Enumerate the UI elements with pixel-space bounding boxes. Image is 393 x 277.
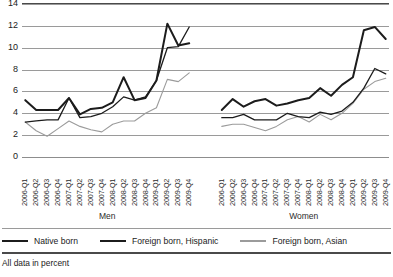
x-tick-label: 2006-Q4 <box>250 179 258 206</box>
x-axis-line <box>22 157 389 158</box>
legend-label: Foreign born, Asian <box>272 236 347 246</box>
x-tick-2009-Q1: 2009-Q1 <box>348 160 358 208</box>
x-tick-2006-Q4: 2006-Q4 <box>250 160 260 208</box>
x-tick-label: 2006-Q2 <box>228 179 236 206</box>
y-tick-label-10: 10 <box>2 43 18 52</box>
x-tick-2007-Q4: 2007-Q4 <box>293 160 303 208</box>
x-tick-2006-Q2: 2006-Q2 <box>31 160 41 208</box>
group-label-women: Women <box>219 211 390 221</box>
legend-item-native-born[interactable]: Native born <box>2 236 78 246</box>
legend-rule-top <box>2 228 391 229</box>
x-tick-2008-Q4: 2008-Q4 <box>141 160 151 208</box>
x-tick-label: 2006-Q1 <box>21 179 29 206</box>
x-tick-2008-Q2: 2008-Q2 <box>119 160 129 208</box>
y-tick-label-12: 12 <box>2 21 18 30</box>
x-tick-label: 2006-Q4 <box>54 179 62 206</box>
legend-swatch-icon <box>100 240 126 242</box>
x-tick-2007-Q2: 2007-Q2 <box>271 160 281 208</box>
x-tick-label: 2009-Q3 <box>370 179 378 206</box>
chart-figure: 02468101214 2006-Q12006-Q22006-Q32006-Q4… <box>0 0 393 277</box>
x-tick-2006-Q1: 2006-Q1 <box>217 160 227 208</box>
x-tick-2008-Q1: 2008-Q1 <box>108 160 118 208</box>
x-tick-2008-Q4: 2008-Q4 <box>337 160 347 208</box>
x-tick-label: 2006-Q1 <box>217 179 225 206</box>
x-tick-label: 2008-Q1 <box>108 179 116 206</box>
x-tick-label: 2009-Q3 <box>174 179 182 206</box>
x-tick-2007-Q4: 2007-Q4 <box>97 160 107 208</box>
x-tick-label: 2007-Q1 <box>261 179 269 206</box>
x-tick-2007-Q2: 2007-Q2 <box>75 160 85 208</box>
x-tick-label: 2006-Q3 <box>239 179 247 206</box>
x-tick-label: 2007-Q3 <box>283 179 291 206</box>
x-tick-label: 2007-Q4 <box>97 179 105 206</box>
x-tick-2009-Q4: 2009-Q4 <box>184 160 194 208</box>
x-tick-label: 2009-Q1 <box>348 179 356 206</box>
x-tick-2009-Q2: 2009-Q2 <box>162 160 172 208</box>
y-tick-label-14: 14 <box>2 0 18 8</box>
x-tick-label: 2006-Q3 <box>43 179 51 206</box>
legend-swatch-icon <box>240 240 266 241</box>
y-tick-label-0: 0 <box>2 152 18 161</box>
x-tick-label: 2008-Q1 <box>305 179 313 206</box>
x-tick-label: 2008-Q3 <box>327 179 335 206</box>
x-tick-2009-Q4: 2009-Q4 <box>381 160 391 208</box>
x-tick-label: 2007-Q1 <box>64 179 72 206</box>
x-tick-2007-Q3: 2007-Q3 <box>282 160 292 208</box>
x-tick-2006-Q4: 2006-Q4 <box>53 160 63 208</box>
x-tick-2009-Q3: 2009-Q3 <box>370 160 380 208</box>
x-tick-2008-Q3: 2008-Q3 <box>130 160 140 208</box>
x-tick-label: 2009-Q2 <box>163 179 171 206</box>
x-tick-label: 2009-Q4 <box>185 179 193 206</box>
x-tick-label: 2007-Q2 <box>75 179 83 206</box>
x-tick-2007-Q3: 2007-Q3 <box>86 160 96 208</box>
legend-item-foreign-born-hispanic[interactable]: Foreign born, Hispanic <box>100 236 218 246</box>
x-tick-label: 2008-Q3 <box>130 179 138 206</box>
x-tick-2006-Q2: 2006-Q2 <box>228 160 238 208</box>
x-tick-2009-Q3: 2009-Q3 <box>173 160 183 208</box>
x-tick-2008-Q3: 2008-Q3 <box>326 160 336 208</box>
x-tick-label: 2008-Q4 <box>141 179 149 206</box>
x-tick-2009-Q1: 2009-Q1 <box>151 160 161 208</box>
legend-item-foreign-born-asian[interactable]: Foreign born, Asian <box>240 236 347 246</box>
y-tick-label-2: 2 <box>2 130 18 139</box>
x-tick-2006-Q3: 2006-Q3 <box>239 160 249 208</box>
y-tick-label-4: 4 <box>2 108 18 117</box>
x-tick-2007-Q1: 2007-Q1 <box>260 160 270 208</box>
legend-label: Foreign born, Hispanic <box>132 236 218 246</box>
x-tick-label: 2007-Q4 <box>294 179 302 206</box>
x-tick-2006-Q3: 2006-Q3 <box>42 160 52 208</box>
x-tick-label: 2008-Q2 <box>119 179 127 206</box>
x-tick-label: 2009-Q1 <box>152 179 160 206</box>
x-tick-label: 2008-Q4 <box>338 179 346 206</box>
x-tick-label: 2006-Q2 <box>32 179 40 206</box>
y-tick-label-8: 8 <box>2 65 18 74</box>
legend-rule-bottom <box>2 252 391 254</box>
x-tick-label: 2009-Q4 <box>381 179 389 206</box>
x-tick-label: 2007-Q3 <box>86 179 94 206</box>
x-tick-group-men: 2006-Q12006-Q22006-Q32006-Q42007-Q12007-… <box>22 160 193 210</box>
legend-swatch-icon <box>2 240 28 242</box>
x-tick-2006-Q1: 2006-Q1 <box>20 160 30 208</box>
y-tick-label-6: 6 <box>2 86 18 95</box>
x-tick-label: 2007-Q2 <box>272 179 280 206</box>
x-tick-label: 2008-Q2 <box>316 179 324 206</box>
group-label-men: Men <box>22 211 193 221</box>
x-tick-label: 2009-Q2 <box>359 179 367 206</box>
y-axis-labels: 02468101214 <box>0 4 393 157</box>
x-tick-2007-Q1: 2007-Q1 <box>64 160 74 208</box>
x-tick-group-women: 2006-Q12006-Q22006-Q32006-Q42007-Q12007-… <box>219 160 390 210</box>
footnote: All data in percent <box>2 258 69 268</box>
x-tick-2008-Q1: 2008-Q1 <box>304 160 314 208</box>
chart-legend: Native bornForeign born, HispanicForeign… <box>2 232 391 250</box>
x-tick-2009-Q2: 2009-Q2 <box>359 160 369 208</box>
x-tick-2008-Q2: 2008-Q2 <box>315 160 325 208</box>
legend-label: Native born <box>34 236 78 246</box>
